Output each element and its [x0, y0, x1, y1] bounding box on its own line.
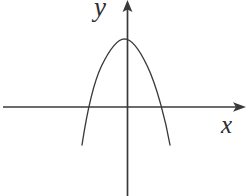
- x-axis-label: x: [221, 112, 232, 137]
- parabola-figure: y x: [0, 0, 248, 196]
- parabola-curve: [82, 39, 170, 145]
- coordinate-plane-svg: [0, 0, 248, 196]
- y-axis-label: y: [94, 0, 106, 21]
